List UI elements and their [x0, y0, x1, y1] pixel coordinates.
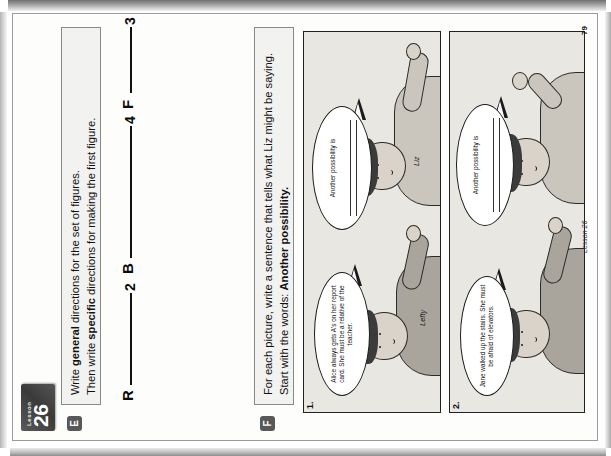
figure-1-number: 2	[122, 283, 138, 291]
section-e-line1-pre: Write	[69, 366, 81, 395]
figure-item-1: R 2	[119, 275, 141, 401]
panel-2-answer-text: Another possibility is	[472, 130, 480, 200]
panel-1-answer-lines	[344, 120, 357, 216]
section-e-line2-pre: Then write	[85, 340, 97, 395]
section-e-instruction-line-2: Then write specific directions for makin…	[84, 37, 100, 395]
panel-1-answer-text: Another possibility is	[329, 133, 337, 203]
section-f-instruction-line-2: Start with the words: Another possibilit…	[277, 37, 293, 395]
worksheet-page: Lesson 26 E Write general directions for…	[12, 13, 598, 441]
section-e-line2-bold: specific	[85, 298, 97, 340]
panel-1-answer-line-2	[356, 120, 357, 216]
section-e-instructions: Write general directions for the set of …	[61, 27, 101, 405]
p2-liz-mouth	[533, 166, 537, 171]
scanned-page-container: Lesson 26 E Write general directions for…	[0, 0, 611, 456]
section-f-instruction-line-1: For each picture, write a sentence that …	[261, 37, 277, 395]
scan-shadow-bottom-edge	[10, 448, 606, 456]
figure-item-3: F 3	[119, 13, 141, 109]
footer-page-number: 79	[580, 26, 589, 35]
lefty-eye-left	[379, 346, 381, 348]
section-e-line1-bold: general	[69, 326, 81, 366]
panel-2-answer-bubble-liz: Another possibility is	[456, 104, 514, 226]
liz-hand	[406, 43, 421, 60]
figure-2-letter: B	[119, 263, 136, 274]
panel-2-number: 2.	[451, 401, 461, 409]
scan-shadow-left-edge	[0, 12, 7, 448]
section-f-line2-bold: Another possibility.	[278, 187, 290, 291]
p2-lefty-mouth	[533, 337, 537, 342]
figure-3-number: 3	[122, 17, 138, 25]
comic-strip: 1.	[303, 31, 585, 413]
panel-2-character-lefty	[500, 230, 585, 380]
comic-panel-2: 2.	[449, 31, 585, 413]
section-e-figure-set: R 2 B 4 F 3	[111, 27, 239, 401]
panel-1-answer-line-1	[350, 120, 351, 216]
panel-1-name-lefty: Lefty	[418, 310, 427, 326]
lefty-mouth	[391, 339, 395, 344]
figure-1-rule	[130, 293, 132, 385]
p2-lefty-eye-left	[521, 344, 523, 346]
scan-shadow-right-edge	[605, 12, 611, 448]
panel-2-answer-lines	[487, 118, 500, 212]
panel-2-speech-bubble-lefty: Jane walked up the stairs. She must be a…	[460, 276, 514, 396]
lefty-hand	[406, 225, 421, 242]
figure-2-number: 4	[122, 116, 138, 124]
figure-3-letter: F	[119, 100, 136, 109]
panel-1-speech-text: Alice always gets A's on her report card…	[330, 273, 355, 395]
section-label-e: E	[67, 416, 82, 431]
p2-lefty-hand	[548, 217, 563, 234]
section-e-line1-post: directions for the set of figures.	[69, 170, 81, 326]
panel-1-character-lefty	[356, 242, 441, 382]
scan-shadow-top-edge	[8, 0, 606, 11]
p2-liz-hand	[512, 72, 528, 90]
lefty-eye-right	[379, 333, 381, 335]
figure-2-rule	[130, 126, 132, 258]
panel-1-number: 1.	[305, 401, 315, 409]
section-e-instruction-line-1: Write general directions for the set of …	[68, 37, 84, 395]
section-f-line2-pre: Start with the words:	[278, 291, 290, 395]
panel-1-answer-bubble-liz: Another possibility is	[312, 106, 372, 230]
section-f-instructions: For each picture, write a sentence that …	[254, 27, 294, 405]
figure-1-letter: R	[119, 390, 136, 401]
liz-mouth	[389, 170, 393, 175]
panel-2-answer-line-1	[493, 118, 494, 212]
panel-2-speech-text: Jane walked up the stairs. She must be a…	[479, 277, 495, 395]
figure-item-2: B 4	[119, 110, 141, 274]
lesson-badge-number: 26	[30, 405, 51, 427]
figure-3-rule	[130, 27, 132, 93]
section-e-line2-post: directions for making the first figure.	[85, 118, 97, 298]
section-label-f: F	[260, 416, 275, 431]
panel-1-speech-bubble-lefty: Alice always gets A's on her report card…	[314, 272, 370, 396]
p2-lefty-eye-right	[521, 331, 523, 333]
panel-2-answer-line-2	[499, 118, 500, 212]
comic-panel-1: 1.	[303, 31, 441, 413]
rotated-page-content: Lesson 26 E Write general directions for…	[15, 15, 595, 439]
lesson-badge: Lesson 26	[21, 384, 55, 431]
panel-1-name-liz: Liz	[412, 156, 421, 166]
